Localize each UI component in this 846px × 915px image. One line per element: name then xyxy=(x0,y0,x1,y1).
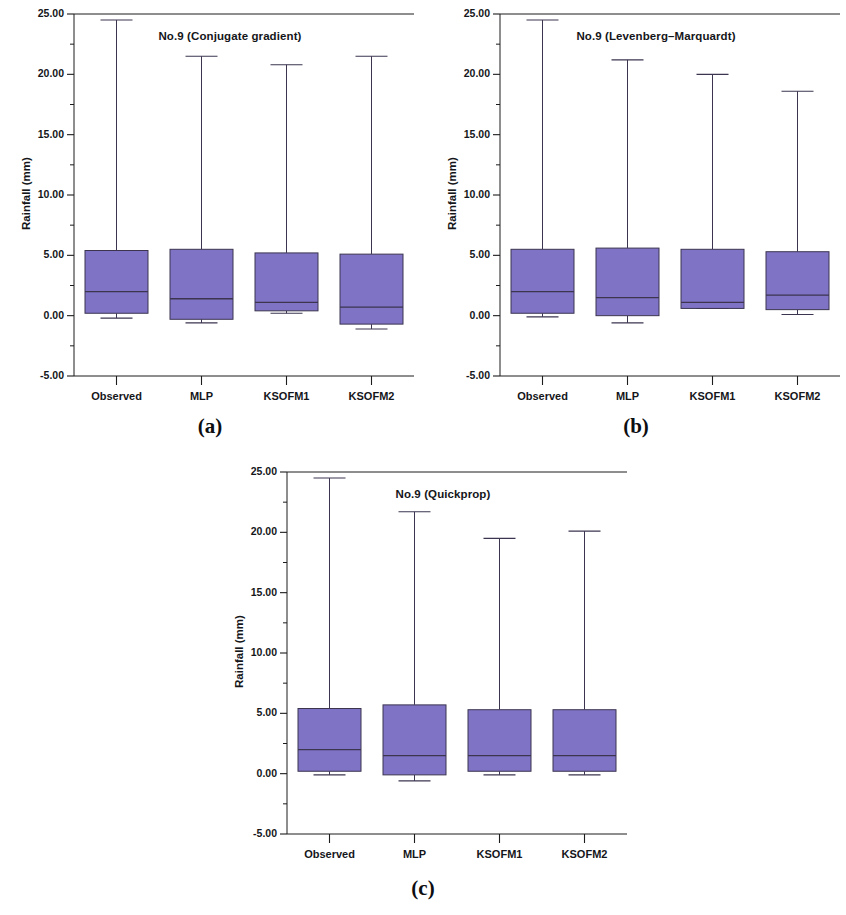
panel-a: No.9 (Conjugate gradient) Rainfall (mm) … xyxy=(0,0,420,455)
x-axis-ticks xyxy=(330,834,585,843)
y-tick-label: 15.00 xyxy=(432,128,490,140)
y-tick-label: 25.00 xyxy=(219,465,277,477)
boxplot-box xyxy=(766,91,829,314)
axis-frame xyxy=(287,472,627,834)
panel-b-title: No.9 (Levenberg–Marquardt) xyxy=(426,30,846,42)
y-axis-ticks xyxy=(280,472,287,834)
panel-b-plot: No.9 (Levenberg–Marquardt) Rainfall (mm)… xyxy=(426,0,846,400)
y-tick-label: 10.00 xyxy=(219,646,277,658)
y-tick-label: 5.00 xyxy=(6,248,64,260)
x-axis-ticks xyxy=(543,376,798,385)
axis-frame xyxy=(500,14,840,376)
x-axis-ticks xyxy=(117,376,372,385)
y-tick-label: 20.00 xyxy=(432,67,490,79)
boxplot-box xyxy=(596,60,659,323)
boxplot-box xyxy=(298,478,361,775)
boxplot-figure: No.9 (Conjugate gradient) Rainfall (mm) … xyxy=(0,0,846,915)
boxplot-box xyxy=(255,65,318,314)
y-tick-label: 25.00 xyxy=(6,7,64,19)
y-tick-label: 10.00 xyxy=(432,188,490,200)
y-tick-label: -5.00 xyxy=(6,369,64,381)
y-tick-label: 25.00 xyxy=(432,7,490,19)
boxplot-box xyxy=(468,538,531,775)
y-tick-label: 0.00 xyxy=(219,767,277,779)
panel-c-title: No.9 (Quickprop) xyxy=(213,488,633,500)
y-axis-ticks xyxy=(67,14,74,376)
boxplot-box xyxy=(511,20,574,317)
y-tick-label: 15.00 xyxy=(219,586,277,598)
y-tick-label: 20.00 xyxy=(6,67,64,79)
panel-c: No.9 (Quickprop) Rainfall (mm) 25.0020.0… xyxy=(213,458,633,915)
y-tick-label: 15.00 xyxy=(6,128,64,140)
panel-a-chart-svg xyxy=(0,0,420,400)
panel-a-title: No.9 (Conjugate gradient) xyxy=(0,30,420,42)
boxplot-box xyxy=(340,56,403,329)
x-tick-label: KSOFM2 xyxy=(317,390,427,402)
boxplot-box xyxy=(553,531,616,775)
x-tick-label: KSOFM2 xyxy=(530,848,640,860)
x-tick-label: KSOFM2 xyxy=(743,390,846,402)
panel-b-caption: (b) xyxy=(426,414,846,439)
y-tick-label: -5.00 xyxy=(432,369,490,381)
y-tick-label: 5.00 xyxy=(432,248,490,260)
y-tick-label: 0.00 xyxy=(6,309,64,321)
boxplot-box xyxy=(170,56,233,323)
panel-c-caption: (c) xyxy=(213,876,633,901)
y-tick-label: -5.00 xyxy=(219,827,277,839)
boxplot-box xyxy=(383,512,446,781)
panel-a-plot: No.9 (Conjugate gradient) Rainfall (mm) … xyxy=(0,0,420,400)
y-tick-label: 0.00 xyxy=(432,309,490,321)
panel-c-chart-svg xyxy=(213,458,633,858)
panel-b: No.9 (Levenberg–Marquardt) Rainfall (mm)… xyxy=(426,0,846,455)
boxplot-box xyxy=(85,20,148,318)
y-tick-label: 5.00 xyxy=(219,706,277,718)
panel-c-plot: No.9 (Quickprop) Rainfall (mm) 25.0020.0… xyxy=(213,458,633,858)
y-tick-label: 20.00 xyxy=(219,525,277,537)
boxplot-box xyxy=(681,74,744,308)
panel-b-chart-svg xyxy=(426,0,846,400)
y-tick-label: 10.00 xyxy=(6,188,64,200)
y-axis-ticks xyxy=(493,14,500,376)
panel-a-caption: (a) xyxy=(0,414,420,439)
